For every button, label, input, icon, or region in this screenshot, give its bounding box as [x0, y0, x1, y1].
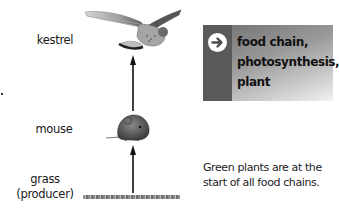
producer-label: (producer)	[10, 187, 80, 201]
caption-line-2: start of all food chains.	[203, 175, 335, 190]
kestrel-image	[83, 6, 183, 52]
keywords-box: food chain, photosynthesis, plant	[203, 25, 333, 101]
arrow-grass-to-mouse	[130, 145, 136, 193]
grass-label: grass	[15, 172, 75, 186]
kestrel-label: kestrel	[30, 33, 80, 47]
keyword-terms: food chain, photosynthesis, plant	[237, 32, 339, 92]
caption-line-1: Green plants are at the	[203, 160, 335, 175]
caption: Green plants are at the start of all foo…	[203, 160, 335, 190]
arrow-right-circle-icon	[208, 33, 227, 52]
stray-dot	[1, 93, 3, 95]
arrow-mouse-to-kestrel	[130, 55, 136, 111]
keyword-photosynthesis: photosynthesis,	[237, 52, 339, 72]
mouse-label: mouse	[28, 122, 80, 136]
keyword-food-chain: food chain,	[237, 32, 339, 52]
keyword-plant: plant	[237, 72, 339, 92]
grass-image	[83, 195, 180, 199]
mouse-image	[106, 112, 152, 144]
